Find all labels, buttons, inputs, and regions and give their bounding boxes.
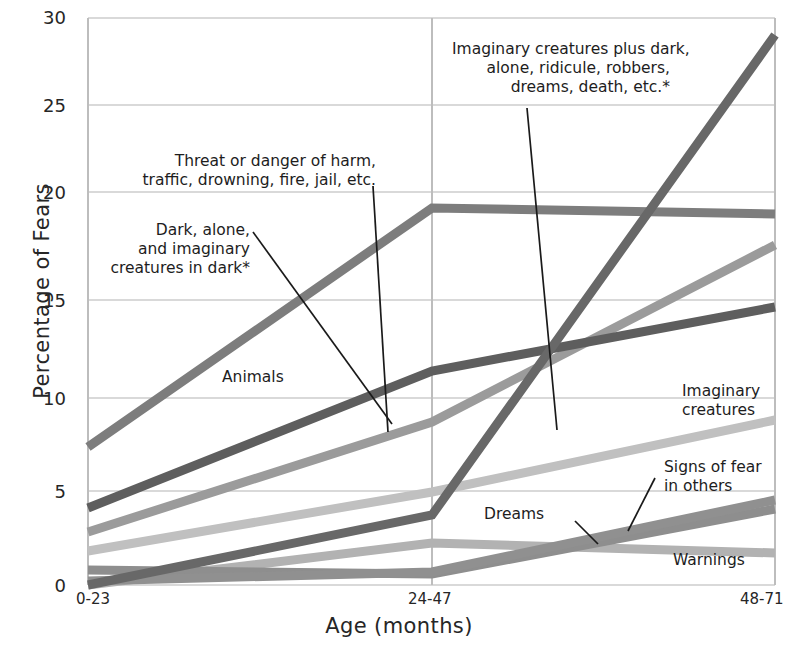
- annotation-dark-alone: Dark, alone, and imaginary creatures in …: [110, 221, 250, 278]
- annotation-threat: Threat or danger of harm, traffic, drown…: [128, 152, 376, 190]
- annotation-imaginary-creatures: Imaginary creatures: [682, 382, 798, 420]
- chart-figure: Percentage of Fears Age (months) 30 25 2…: [0, 0, 798, 653]
- annotation-signs-of-fear: Signs of fear in others: [664, 458, 794, 496]
- annotation-warnings: Warnings: [673, 551, 783, 570]
- annotation-animals: Animals: [222, 368, 342, 387]
- annotation-dreams: Dreams: [484, 505, 574, 524]
- leader-dark-alone: [253, 232, 392, 424]
- annotation-imaginary-plus: Imaginary creatures plus dark, alone, ri…: [452, 40, 670, 97]
